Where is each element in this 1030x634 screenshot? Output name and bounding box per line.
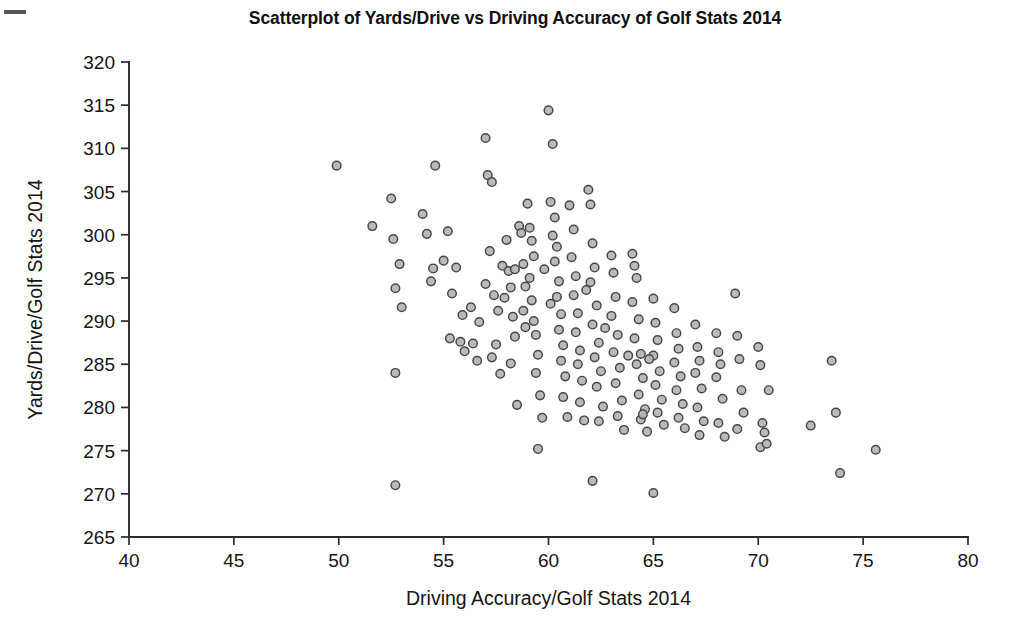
data-point bbox=[553, 293, 562, 302]
data-point bbox=[678, 400, 687, 409]
data-point bbox=[607, 312, 616, 321]
data-point bbox=[643, 427, 652, 436]
data-point bbox=[530, 317, 539, 326]
y-tick-label: 285 bbox=[83, 354, 115, 375]
data-point bbox=[534, 445, 543, 454]
data-point bbox=[391, 284, 400, 293]
data-point bbox=[681, 424, 690, 433]
y-tick-label: 295 bbox=[83, 268, 115, 289]
data-point bbox=[431, 161, 440, 170]
data-point bbox=[733, 331, 742, 340]
data-point bbox=[655, 367, 664, 376]
data-point bbox=[620, 426, 629, 435]
data-point bbox=[582, 286, 591, 295]
x-tick-label: 50 bbox=[328, 550, 349, 571]
y-tick-label: 315 bbox=[83, 95, 115, 116]
data-point bbox=[639, 374, 648, 383]
data-point bbox=[697, 384, 706, 393]
x-tick-label: 60 bbox=[538, 550, 559, 571]
data-point bbox=[592, 301, 601, 310]
data-point bbox=[611, 379, 620, 388]
data-point bbox=[670, 304, 679, 313]
data-point bbox=[557, 357, 566, 366]
data-point bbox=[571, 272, 580, 281]
data-point bbox=[760, 428, 769, 437]
data-point bbox=[630, 334, 639, 343]
data-point bbox=[532, 369, 541, 378]
data-point bbox=[444, 227, 453, 236]
data-point bbox=[611, 293, 620, 302]
data-point bbox=[559, 341, 568, 350]
data-point bbox=[555, 277, 564, 286]
data-point bbox=[827, 357, 836, 366]
data-point bbox=[458, 311, 467, 320]
data-point bbox=[695, 431, 704, 440]
data-point bbox=[586, 200, 595, 209]
data-point bbox=[649, 489, 658, 498]
data-point bbox=[739, 408, 748, 417]
data-point bbox=[506, 283, 515, 292]
data-point bbox=[569, 291, 578, 300]
data-point bbox=[525, 274, 534, 283]
data-point bbox=[513, 401, 522, 410]
data-point bbox=[559, 393, 568, 402]
data-point bbox=[590, 353, 599, 362]
y-tick-label: 305 bbox=[83, 182, 115, 203]
data-point bbox=[527, 236, 536, 245]
y-tick-label: 275 bbox=[83, 441, 115, 462]
data-point bbox=[485, 247, 494, 256]
data-point bbox=[397, 303, 406, 312]
data-point bbox=[609, 268, 618, 277]
data-point bbox=[731, 289, 740, 298]
x-tick-label: 40 bbox=[118, 550, 139, 571]
data-point bbox=[488, 178, 497, 187]
y-axis-title: Yards/Drive/Golf Stats 2014 bbox=[24, 179, 46, 419]
data-point bbox=[511, 265, 520, 274]
x-axis-title: Driving Accuracy/Golf Stats 2014 bbox=[406, 587, 691, 609]
data-point bbox=[452, 263, 461, 272]
data-point bbox=[488, 353, 497, 362]
data-point bbox=[764, 386, 773, 395]
data-point bbox=[492, 340, 501, 349]
data-point bbox=[699, 417, 708, 426]
data-point bbox=[550, 257, 559, 266]
x-tick-label: 65 bbox=[643, 550, 664, 571]
data-point bbox=[632, 360, 641, 369]
x-tick-label: 70 bbox=[748, 550, 769, 571]
data-point bbox=[691, 369, 700, 378]
data-points-group bbox=[332, 106, 880, 497]
data-point bbox=[754, 343, 763, 352]
data-point bbox=[521, 282, 530, 291]
data-point bbox=[720, 433, 729, 442]
data-point bbox=[532, 331, 541, 340]
data-point bbox=[456, 338, 465, 347]
data-point bbox=[595, 417, 604, 426]
data-point bbox=[521, 323, 530, 332]
data-point bbox=[628, 249, 637, 258]
data-point bbox=[836, 469, 845, 478]
plot-area: 265270275280285290295300305310315320 404… bbox=[0, 0, 1030, 634]
data-point bbox=[563, 413, 572, 422]
data-point bbox=[712, 329, 721, 338]
data-point bbox=[676, 372, 685, 381]
data-point bbox=[653, 408, 662, 417]
data-point bbox=[657, 395, 666, 404]
data-point bbox=[565, 201, 574, 210]
data-point bbox=[592, 382, 601, 391]
y-axis-ticks: 265270275280285290295300305310315320 bbox=[83, 52, 129, 548]
data-point bbox=[616, 363, 625, 372]
data-point bbox=[332, 161, 341, 170]
data-point bbox=[735, 355, 744, 364]
data-point bbox=[595, 338, 604, 347]
data-point bbox=[502, 236, 511, 245]
data-point bbox=[519, 306, 528, 315]
data-point bbox=[509, 312, 518, 321]
data-point bbox=[871, 445, 880, 454]
data-point bbox=[490, 291, 499, 300]
x-tick-label: 75 bbox=[853, 550, 874, 571]
x-tick-label: 45 bbox=[223, 550, 244, 571]
data-point bbox=[634, 315, 643, 324]
data-point bbox=[467, 303, 476, 312]
data-point bbox=[544, 106, 553, 115]
y-tick-label: 290 bbox=[83, 311, 115, 332]
